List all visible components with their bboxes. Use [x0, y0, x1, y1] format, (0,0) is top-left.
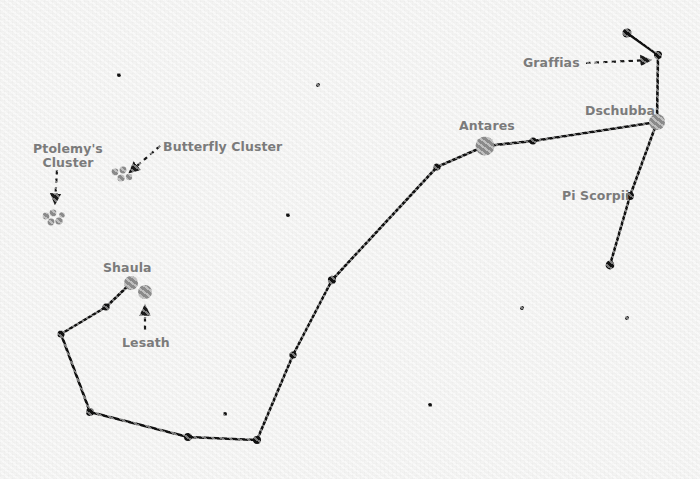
cluster-star	[43, 213, 50, 220]
cluster-star	[55, 217, 62, 224]
constellation-line	[533, 122, 657, 141]
constellation-star	[606, 261, 615, 270]
constellation-line	[630, 122, 657, 196]
label-ptolemys-cluster-line2: Cluster	[42, 155, 93, 170]
constellation-star	[86, 408, 94, 416]
constellation-lines	[61, 33, 658, 440]
background-star	[117, 73, 121, 77]
label-dschubba: Dschubba	[585, 104, 655, 118]
label-graffias: Graffias	[523, 56, 580, 70]
background-stars	[117, 73, 629, 416]
cluster-star	[117, 174, 124, 181]
constellation-star	[529, 137, 536, 144]
cluster-star	[59, 212, 65, 218]
label-ptolemys-cluster: Ptolemy's Cluster	[33, 142, 103, 170]
background-star	[625, 316, 629, 320]
constellation-line	[332, 167, 437, 280]
constellation-star	[184, 433, 192, 441]
label-shaula: Shaula	[103, 261, 152, 275]
constellation-line	[257, 355, 293, 440]
background-star	[520, 306, 524, 310]
named-stars	[124, 51, 665, 299]
constellation-line	[657, 55, 658, 122]
star-map-canvas	[0, 0, 700, 479]
constellation-line	[188, 437, 257, 440]
constellation-star	[102, 303, 109, 310]
cluster-star	[50, 210, 57, 217]
annotation-arrow	[55, 170, 57, 203]
named-star-antares	[476, 137, 495, 156]
constellation-star	[253, 436, 261, 444]
label-butterfly-cluster: Butterfly Cluster	[163, 140, 282, 154]
constellation-line	[61, 334, 90, 412]
constellation-line	[293, 280, 332, 355]
background-star	[428, 403, 432, 407]
constellation-star-map: Ptolemy's Cluster Butterfly Cluster Shau…	[0, 0, 700, 479]
cluster-star	[126, 174, 132, 180]
label-ptolemys-cluster-line1: Ptolemy's	[33, 141, 103, 156]
background-star	[286, 213, 290, 217]
background-star	[223, 412, 227, 416]
cluster-star	[120, 167, 127, 174]
cluster-star	[48, 219, 55, 226]
constellation-star	[622, 28, 631, 37]
constellation-star	[433, 163, 440, 170]
constellation-star	[289, 351, 296, 358]
label-antares: Antares	[459, 119, 515, 133]
constellation-star	[57, 330, 64, 337]
label-pi-scorpii: Pi Scorpii	[562, 189, 629, 203]
constellation-stars	[57, 28, 631, 444]
label-lesath: Lesath	[122, 336, 170, 350]
named-star-lesath	[138, 285, 152, 299]
constellation-line	[61, 307, 106, 334]
constellation-line	[627, 33, 658, 55]
cluster-star	[112, 169, 119, 176]
named-star-shaula	[124, 276, 138, 290]
constellation-line	[90, 412, 188, 437]
annotation-arrow	[586, 60, 650, 63]
named-star-graffias	[654, 51, 662, 59]
annotation-arrow	[130, 146, 160, 172]
constellation-line	[610, 196, 630, 265]
background-star	[316, 83, 320, 87]
constellation-star	[328, 276, 336, 284]
